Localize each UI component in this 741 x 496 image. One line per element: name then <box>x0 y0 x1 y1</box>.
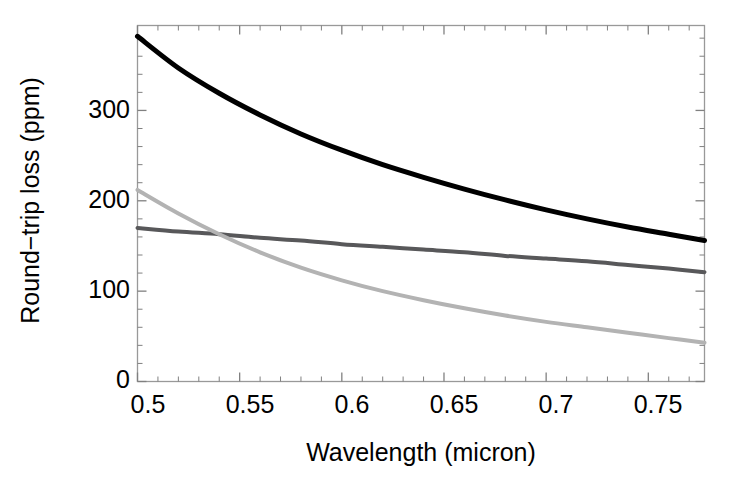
axes-frame-rect <box>138 26 705 382</box>
axis-ticks <box>138 26 705 382</box>
data-series-group <box>138 36 705 342</box>
chart-figure: Round−trip loss (ppm) 300 200 100 0 0.5 … <box>0 0 741 496</box>
series-line-upper-curve <box>138 36 705 240</box>
axes-frame <box>138 26 705 382</box>
plot-area <box>0 0 741 496</box>
series-line-lower-curve <box>138 190 705 343</box>
